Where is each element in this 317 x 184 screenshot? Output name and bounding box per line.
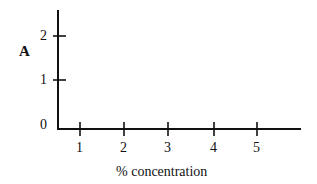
chart-axes xyxy=(0,0,317,184)
x-tick-label-5: 5 xyxy=(253,141,260,155)
y-tick-label-0: 0 xyxy=(40,118,47,132)
y-tick-label-1: 1 xyxy=(40,73,47,87)
x-tick-label-3: 3 xyxy=(164,141,171,155)
x-tick-label-4: 4 xyxy=(210,141,217,155)
x-tick-label-2: 2 xyxy=(120,141,127,155)
y-axis-label: A xyxy=(19,44,30,58)
x-axis-label: % concentration xyxy=(116,165,207,179)
x-tick-label-1: 1 xyxy=(76,141,83,155)
y-tick-label-2: 2 xyxy=(40,29,47,43)
